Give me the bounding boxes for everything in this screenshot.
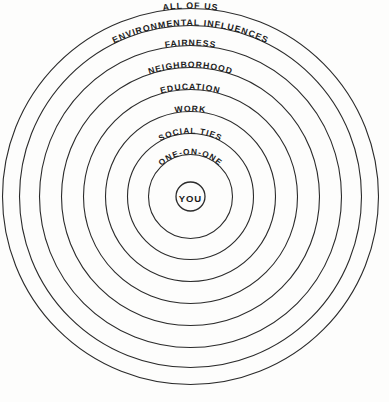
ring-label-neighborhood: NEIGHBORHOOD [147,59,234,76]
ring-label-social-ties: SOCIAL TIES [157,125,224,143]
ring-label-work-path: WORK [174,103,207,114]
ring-label-all-of-us-path: ALL OF US [162,1,219,13]
ring-label-work: WORK [174,103,207,114]
ring-label-one-on-one-path: ONE-ON-ONE [156,146,224,167]
ring-label-you: YOU [179,193,202,204]
ring-label-fairness-path: FAIRNESS [164,38,217,50]
concentric-rings-diagram: ALL OF US ENVIRONMENTAL INFLUENCES FAIRN… [0,0,389,402]
ring-label-fairness: FAIRNESS [164,38,217,50]
rings-svg-canvas: ALL OF US ENVIRONMENTAL INFLUENCES FAIRN… [0,0,389,402]
ring-label-one-on-one: ONE-ON-ONE [156,146,224,167]
ring-label-education: EDUCATION [159,81,222,95]
ring-label-neighborhood-path: NEIGHBORHOOD [147,59,234,76]
ring-label-all-of-us: ALL OF US [162,1,219,13]
ring-label-education-path: EDUCATION [159,81,222,95]
ring-label-social-ties-path: SOCIAL TIES [157,125,224,143]
